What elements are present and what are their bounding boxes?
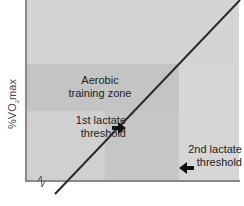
- vo2-trend-line: [55, 0, 240, 194]
- diagram-overlay: [0, 0, 244, 206]
- second-threshold-arrow-icon: [179, 162, 194, 174]
- axis-break-icon: [38, 176, 45, 187]
